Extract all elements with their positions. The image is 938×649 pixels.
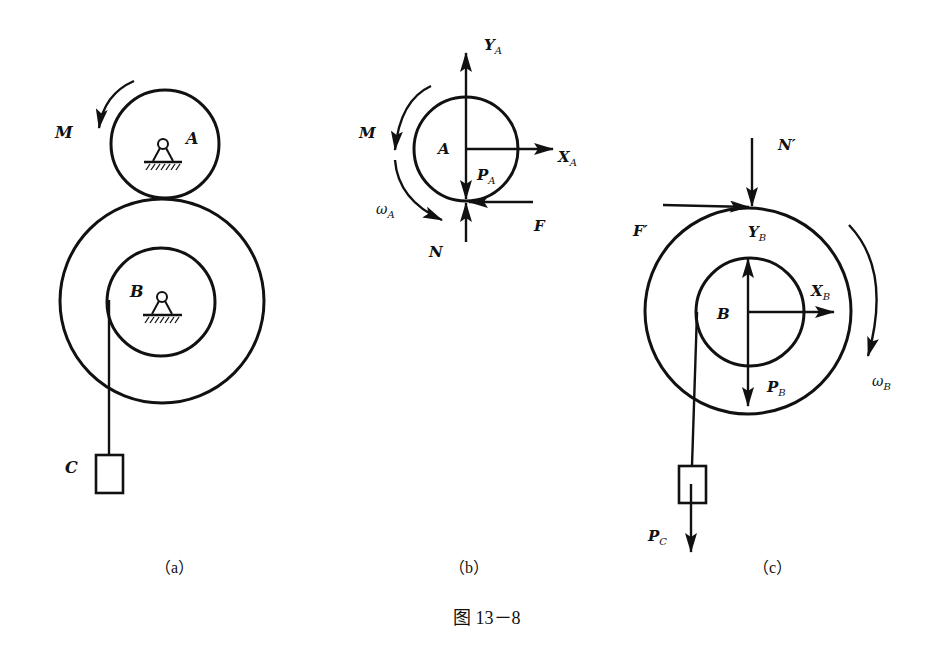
panel-b-label: （b）	[449, 559, 489, 576]
panel-c-label: （c）	[753, 559, 792, 576]
force-xb-label: XB	[810, 282, 830, 302]
panel-a: A M B C （a）	[54, 81, 264, 576]
wheel-b-label: B	[129, 282, 144, 301]
panel-a-label: （a）	[155, 559, 194, 576]
force-f-prime-label: F′	[632, 222, 648, 240]
center-a-label: A	[436, 140, 450, 158]
force-pa-label: PA	[476, 166, 496, 186]
force-xa-label: XA	[557, 148, 577, 168]
pin-support-b-icon	[143, 292, 182, 323]
force-f-prime-arrow-icon	[663, 205, 749, 207]
cord	[692, 312, 697, 466]
panel-c: N′ F′ YB XB PB B ωB PC （c）	[632, 136, 891, 576]
block-c	[96, 455, 123, 493]
figure-caption: 图 13－8	[453, 608, 521, 628]
force-f-label: F	[533, 217, 546, 235]
pin-support-a-icon	[144, 139, 182, 170]
force-yb-label: YB	[748, 223, 766, 243]
force-ya-label: YA	[484, 36, 502, 56]
block-c	[679, 466, 706, 503]
force-n-label: N	[428, 243, 444, 261]
moment-label: M	[54, 123, 74, 142]
block-c-label: C	[65, 458, 78, 477]
center-b-label: B	[716, 305, 730, 323]
force-n-prime-label: N′	[777, 136, 796, 154]
force-pb-label: PB	[766, 378, 786, 398]
moment-label: M	[358, 124, 376, 142]
omega-a-label: ωA	[376, 201, 395, 220]
panel-b: YA XA PA N F A M ωA （b）	[358, 36, 577, 576]
wheel-a-label: A	[184, 129, 198, 148]
omega-b-label: ωB	[872, 373, 891, 392]
figure-13-8: A M B C （a）	[0, 0, 938, 649]
angular-velocity-arrow-icon	[849, 225, 877, 356]
force-pc-label: PC	[647, 527, 667, 547]
